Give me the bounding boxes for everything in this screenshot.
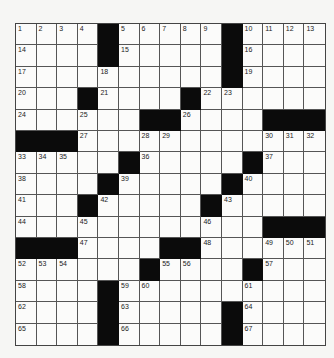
crossword-cell[interactable]: 48 [201,238,222,259]
crossword-cell[interactable] [284,259,305,280]
crossword-cell[interactable] [37,302,58,323]
crossword-cell[interactable] [222,238,243,259]
crossword-cell[interactable] [222,131,243,152]
crossword-cell[interactable] [57,302,78,323]
crossword-cell[interactable] [284,67,305,88]
crossword-cell[interactable]: 53 [37,259,58,280]
crossword-cell[interactable]: 45 [78,217,99,238]
crossword-cell[interactable]: 27 [78,131,99,152]
crossword-cell[interactable]: 32 [304,131,325,152]
crossword-cell[interactable] [160,45,181,66]
crossword-cell[interactable]: 4 [78,24,99,45]
crossword-cell[interactable] [263,45,284,66]
crossword-cell[interactable] [263,324,284,345]
crossword-cell[interactable] [57,174,78,195]
crossword-cell[interactable] [284,88,305,109]
crossword-cell[interactable] [78,302,99,323]
crossword-cell[interactable]: 26 [181,110,202,131]
crossword-cell[interactable] [222,259,243,280]
crossword-cell[interactable] [57,195,78,216]
crossword-cell[interactable] [263,67,284,88]
crossword-cell[interactable] [160,324,181,345]
crossword-cell[interactable] [160,67,181,88]
crossword-cell[interactable] [222,110,243,131]
crossword-cell[interactable] [98,110,119,131]
crossword-cell[interactable] [304,45,325,66]
crossword-cell[interactable] [78,67,99,88]
crossword-cell[interactable]: 5 [119,24,140,45]
crossword-cell[interactable]: 56 [181,259,202,280]
crossword-cell[interactable]: 1 [16,24,37,45]
crossword-cell[interactable] [119,217,140,238]
crossword-cell[interactable] [160,217,181,238]
crossword-cell[interactable] [37,217,58,238]
crossword-cell[interactable] [284,152,305,173]
crossword-cell[interactable]: 62 [16,302,37,323]
crossword-cell[interactable] [243,110,264,131]
crossword-cell[interactable]: 46 [201,217,222,238]
crossword-cell[interactable]: 42 [98,195,119,216]
crossword-cell[interactable]: 57 [263,259,284,280]
crossword-cell[interactable] [243,131,264,152]
crossword-cell[interactable]: 36 [140,152,161,173]
crossword-cell[interactable]: 47 [78,238,99,259]
crossword-cell[interactable] [140,238,161,259]
crossword-cell[interactable]: 21 [98,88,119,109]
crossword-cell[interactable] [57,110,78,131]
crossword-cell[interactable] [119,131,140,152]
crossword-cell[interactable] [222,281,243,302]
crossword-cell[interactable]: 58 [16,281,37,302]
crossword-cell[interactable] [78,281,99,302]
crossword-cell[interactable] [222,217,243,238]
crossword-cell[interactable] [181,302,202,323]
crossword-cell[interactable] [160,281,181,302]
crossword-cell[interactable] [78,152,99,173]
crossword-cell[interactable]: 18 [98,67,119,88]
crossword-cell[interactable] [37,324,58,345]
crossword-cell[interactable] [263,88,284,109]
crossword-cell[interactable] [119,259,140,280]
crossword-cell[interactable]: 44 [16,217,37,238]
crossword-cell[interactable] [140,217,161,238]
crossword-cell[interactable]: 34 [37,152,58,173]
crossword-cell[interactable] [201,302,222,323]
crossword-cell[interactable] [37,45,58,66]
crossword-cell[interactable]: 41 [16,195,37,216]
crossword-cell[interactable] [304,281,325,302]
crossword-cell[interactable]: 43 [222,195,243,216]
crossword-cell[interactable]: 49 [263,238,284,259]
crossword-cell[interactable]: 12 [284,24,305,45]
crossword-cell[interactable]: 66 [119,324,140,345]
crossword-cell[interactable] [140,45,161,66]
crossword-cell[interactable] [181,195,202,216]
crossword-cell[interactable]: 60 [140,281,161,302]
crossword-cell[interactable]: 64 [243,302,264,323]
crossword-cell[interactable] [201,152,222,173]
crossword-cell[interactable] [284,195,305,216]
crossword-cell[interactable] [181,281,202,302]
crossword-cell[interactable]: 6 [140,24,161,45]
crossword-cell[interactable] [243,195,264,216]
crossword-cell[interactable] [201,45,222,66]
crossword-cell[interactable] [160,174,181,195]
crossword-cell[interactable]: 37 [263,152,284,173]
crossword-cell[interactable]: 29 [160,131,181,152]
crossword-cell[interactable] [304,259,325,280]
crossword-cell[interactable]: 28 [140,131,161,152]
crossword-cell[interactable] [78,259,99,280]
crossword-cell[interactable] [181,45,202,66]
crossword-cell[interactable] [160,302,181,323]
crossword-cell[interactable] [140,302,161,323]
crossword-cell[interactable] [284,45,305,66]
crossword-cell[interactable]: 13 [304,24,325,45]
crossword-cell[interactable] [119,195,140,216]
crossword-cell[interactable] [37,110,58,131]
crossword-cell[interactable] [284,324,305,345]
crossword-cell[interactable] [37,174,58,195]
crossword-cell[interactable]: 9 [201,24,222,45]
crossword-cell[interactable]: 24 [16,110,37,131]
crossword-cell[interactable] [284,281,305,302]
crossword-cell[interactable] [201,259,222,280]
crossword-cell[interactable] [119,67,140,88]
crossword-cell[interactable]: 20 [16,88,37,109]
